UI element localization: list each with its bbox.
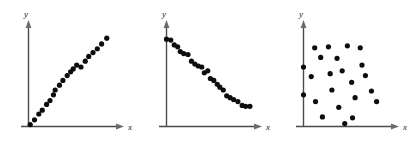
data-point xyxy=(318,55,323,60)
data-point xyxy=(28,122,33,127)
data-point xyxy=(349,80,354,85)
data-point xyxy=(60,78,65,83)
data-point xyxy=(363,73,368,78)
data-point xyxy=(221,87,226,92)
data-point xyxy=(342,121,347,126)
data-point xyxy=(86,54,91,59)
data-point xyxy=(326,44,331,49)
data-point xyxy=(247,104,252,109)
x-axis-label: x xyxy=(265,122,270,132)
data-points-group-1 xyxy=(28,36,110,128)
x-axis-label: x xyxy=(127,122,132,132)
data-point xyxy=(328,71,333,76)
y-axis-arrowhead xyxy=(164,20,170,28)
data-point xyxy=(205,68,210,73)
data-point xyxy=(301,64,306,69)
scatter-plot-positive-correlation: y x xyxy=(0,0,140,151)
scatter-panel-1: y x xyxy=(0,0,140,151)
data-point xyxy=(374,99,379,104)
x-axis-label: x xyxy=(402,122,407,132)
scatter-panel-2: y x xyxy=(139,0,279,151)
data-point xyxy=(350,115,355,120)
data-point xyxy=(336,105,341,110)
x-axis-arrowhead xyxy=(391,124,399,130)
data-point xyxy=(313,99,318,104)
data-point xyxy=(301,92,306,97)
data-point xyxy=(168,38,173,43)
data-point xyxy=(181,51,186,56)
axes-group-2 xyxy=(159,20,262,129)
data-point xyxy=(95,46,100,51)
data-point xyxy=(340,68,345,73)
y-axis-label: y xyxy=(23,9,28,19)
data-point xyxy=(320,114,325,119)
data-point xyxy=(99,41,104,46)
data-point xyxy=(345,43,350,48)
data-point xyxy=(358,45,363,50)
data-point xyxy=(83,59,88,64)
data-points-group-2 xyxy=(164,37,253,109)
data-point xyxy=(90,50,95,55)
y-axis-label: y xyxy=(161,9,166,19)
data-point xyxy=(51,92,56,97)
x-axis-arrowhead xyxy=(116,124,124,130)
data-point xyxy=(175,44,180,49)
data-point xyxy=(334,56,339,61)
data-point xyxy=(309,74,314,79)
data-points-group-3 xyxy=(301,43,379,126)
scatterplot-figure: y x y x y x xyxy=(0,0,417,151)
data-point xyxy=(40,108,45,113)
data-point xyxy=(53,87,58,92)
y-axis-arrowhead xyxy=(26,20,32,28)
data-point xyxy=(164,37,169,42)
data-point xyxy=(353,95,358,100)
data-point xyxy=(47,98,52,103)
data-point xyxy=(235,99,240,104)
data-point xyxy=(32,117,37,122)
data-point xyxy=(104,36,109,41)
data-point xyxy=(199,64,204,69)
y-axis-arrowhead xyxy=(301,20,307,28)
y-axis-label: y xyxy=(298,9,303,19)
scatter-plot-no-correlation: y x xyxy=(277,0,417,151)
data-point xyxy=(57,83,62,88)
data-point xyxy=(78,64,83,69)
scatter-panel-3: y x xyxy=(277,0,417,151)
data-point xyxy=(185,52,190,57)
data-point xyxy=(369,88,374,93)
scatter-plot-negative-correlation: y x xyxy=(139,0,279,151)
data-point xyxy=(312,45,317,50)
data-point xyxy=(329,87,334,92)
data-point xyxy=(359,62,364,67)
x-axis-arrowhead xyxy=(254,124,262,130)
